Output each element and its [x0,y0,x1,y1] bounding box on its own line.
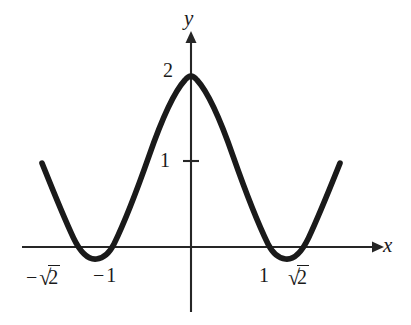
y-axis-label: y [184,8,193,29]
x-tick-label-sqrt2: √2 [288,265,310,289]
y-tick-label-1: 1 [160,150,170,170]
y-tick-label-2: 2 [163,60,173,80]
radical-argument: 2 [297,265,309,287]
minus-sign-glyph: − [93,264,104,286]
radical-group: √2 [288,265,310,289]
y-axis [186,31,197,312]
y-axis-arrowhead-icon [186,31,197,43]
radical-group: √2 [39,265,61,289]
minus-sign-glyph: − [26,266,37,288]
x-axis-label: x [383,235,392,256]
plot-canvas [0,0,411,325]
x-tick-neg-1-value: 1 [106,264,116,286]
x-tick-label-neg-1: −1 [93,265,116,285]
x-tick-label-1: 1 [259,265,269,285]
x-tick-label-neg-sqrt2: −√2 [26,265,61,289]
radical-argument: 2 [48,265,60,287]
graph-figure: y x 2 1 −√2 −1 1 √2 [0,0,411,325]
